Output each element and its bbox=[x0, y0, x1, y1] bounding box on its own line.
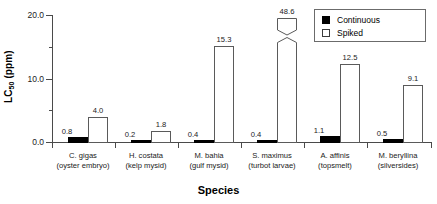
bar-value-spiked-m-bahia: 15.3 bbox=[212, 36, 236, 44]
bar-value-continuous-c-gigas: 0.8 bbox=[56, 128, 78, 136]
bar-continuous-s-maximus bbox=[257, 140, 277, 143]
legend-swatch-open-square-icon bbox=[322, 29, 330, 37]
bar-spiked-c-gigas bbox=[88, 117, 108, 143]
x-category-line1: M. beryllina bbox=[361, 151, 435, 161]
bar-continuous-h-costata bbox=[131, 140, 151, 143]
x-tick-6 bbox=[431, 143, 432, 148]
y-tick-label-10: 10.0 bbox=[10, 75, 44, 83]
legend-entry-spiked: Spiked bbox=[322, 27, 425, 39]
y-axis-title-prefix: LC bbox=[3, 90, 14, 104]
bar-spiked-m-beryllina bbox=[403, 85, 423, 143]
x-tick-5 bbox=[367, 143, 368, 148]
y-tick-10 bbox=[46, 79, 53, 80]
x-tick-2 bbox=[178, 143, 179, 148]
x-axis-title: Species bbox=[0, 184, 437, 196]
y-tick-label-0: 0.0 bbox=[10, 138, 44, 146]
x-category-label-m-beryllina: M. beryllina (silversides) bbox=[361, 151, 435, 171]
y-tick-20 bbox=[46, 15, 53, 16]
bar-spiked-h-costata bbox=[151, 131, 171, 143]
legend-swatch-filled-square-icon bbox=[322, 16, 330, 24]
bar-break-upper-segment bbox=[278, 19, 297, 36]
x-tick-1 bbox=[115, 143, 116, 148]
bar-value-continuous-a-affinis: 1.1 bbox=[308, 127, 330, 135]
legend-label-continuous: Continuous bbox=[337, 16, 380, 25]
bar-value-continuous-m-beryllina: 0.5 bbox=[371, 130, 393, 138]
bar-value-spiked-a-affinis: 12.5 bbox=[338, 54, 362, 62]
bar-spiked-m-bahia bbox=[214, 46, 234, 143]
x-tick-3 bbox=[241, 143, 242, 148]
y-tick-label-20: 20.0 bbox=[10, 11, 44, 19]
bar-value-continuous-m-bahia: 0.4 bbox=[182, 131, 204, 139]
legend-entry-continuous: Continuous bbox=[322, 14, 425, 26]
x-tick-0 bbox=[52, 143, 53, 148]
bar-value-continuous-s-maximus: 0.4 bbox=[245, 131, 267, 139]
x-axis-line bbox=[52, 142, 432, 143]
bar-value-spiked-c-gigas: 4.0 bbox=[87, 107, 109, 115]
chart-legend: Continuous Spiked bbox=[314, 9, 426, 42]
bar-continuous-c-gigas bbox=[68, 137, 88, 143]
bar-continuous-a-affinis bbox=[320, 136, 340, 143]
bar-continuous-m-beryllina bbox=[383, 139, 403, 143]
chart-figure: LC50 (ppm) 0.0 10.0 20.0 0.8 4.0 0.2 1.8… bbox=[0, 0, 437, 204]
y-axis-title-subscript: 50 bbox=[8, 82, 15, 90]
bar-value-spiked-s-maximus: 48.6 bbox=[275, 8, 299, 16]
legend-label-spiked: Spiked bbox=[337, 29, 363, 38]
bar-value-spiked-h-costata: 1.8 bbox=[150, 121, 172, 129]
x-tick-4 bbox=[304, 143, 305, 148]
bar-value-continuous-h-costata: 0.2 bbox=[119, 131, 141, 139]
bar-value-spiked-m-beryllina: 9.1 bbox=[402, 75, 424, 83]
bar-spiked-a-affinis bbox=[340, 64, 360, 143]
y-tick-minor-15 bbox=[49, 47, 53, 48]
bar-continuous-m-bahia bbox=[194, 140, 214, 143]
x-category-line2: (silversides) bbox=[361, 161, 435, 171]
y-tick-minor-5 bbox=[49, 110, 53, 111]
bar-break-lower-segment bbox=[278, 38, 297, 143]
bar-spiked-s-maximus bbox=[277, 18, 297, 143]
